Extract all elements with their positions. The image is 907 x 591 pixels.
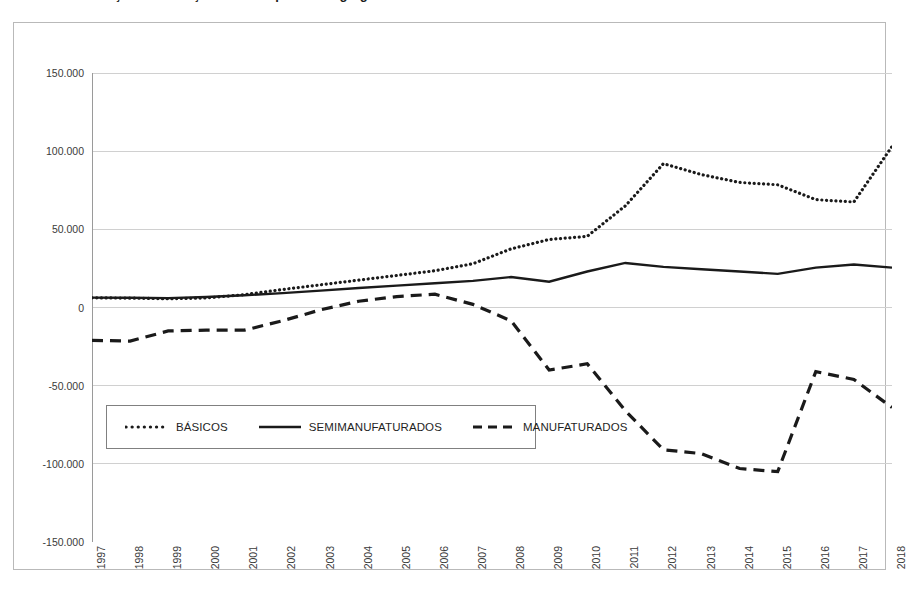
figure-title-strip: Gráfico 1 – Evolução da balança comercia… <box>0 0 900 12</box>
x-tick-label: 2008 <box>515 546 526 569</box>
plot-area <box>92 73 892 542</box>
x-tick-label: 2015 <box>782 546 793 569</box>
x-tick-label: 2009 <box>553 546 564 569</box>
x-tick-label: 2003 <box>325 546 336 569</box>
y-tick-label: 100.000 <box>22 146 84 157</box>
y-tick-label: -150.000 <box>22 537 84 548</box>
legend-label: MANUFATURADOS <box>523 421 628 433</box>
chart-canvas <box>92 73 892 542</box>
legend-item[interactable]: SEMIMANUFATURADOS <box>258 421 442 433</box>
legend-label: SEMIMANUFATURADOS <box>309 421 442 433</box>
legend-swatch-dashed <box>472 422 516 432</box>
x-tick-label: 1998 <box>134 546 145 569</box>
y-tick-label: 50.000 <box>22 224 84 235</box>
x-tick-label: 2018 <box>896 546 907 569</box>
y-tick-label: -50.000 <box>22 380 84 391</box>
legend-item[interactable]: BÁSICOS <box>125 421 228 433</box>
x-tick-label: 2005 <box>401 546 412 569</box>
chart-frame: 150.000100.00050.0000-50.000-100.000-150… <box>13 22 886 570</box>
y-tick-label: 150.000 <box>22 68 84 79</box>
y-tick-label: 0 <box>22 302 84 313</box>
figure-title: Gráfico 1 – Evolução da balança comercia… <box>8 0 391 2</box>
x-tick-label: 2002 <box>286 546 297 569</box>
x-tick-label: 2016 <box>820 546 831 569</box>
x-tick-label: 2014 <box>744 546 755 569</box>
legend-item[interactable]: MANUFATURADOS <box>472 421 628 433</box>
x-tick-label: 2012 <box>667 546 678 569</box>
y-axis-labels: 150.000100.00050.0000-50.000-100.000-150… <box>14 73 84 542</box>
x-tick-label: 2004 <box>363 546 374 569</box>
x-tick-label: 2007 <box>477 546 488 569</box>
chart-legend: BÁSICOSSEMIMANUFATURADOSMANUFATURADOS <box>106 405 536 449</box>
x-tick-label: 2017 <box>858 546 869 569</box>
x-tick-label: 2011 <box>629 546 640 569</box>
x-axis-labels: 1997199819992000200120022003200420052006… <box>92 546 892 591</box>
y-tick-label: -100.000 <box>22 459 84 470</box>
x-tick-label: 2001 <box>248 546 259 569</box>
x-tick-label: 2010 <box>591 546 602 569</box>
legend-swatch-dotted <box>125 422 169 432</box>
x-tick-label: 2013 <box>706 546 717 569</box>
x-tick-label: 1999 <box>172 546 183 569</box>
series-line-básicos <box>92 146 892 298</box>
legend-swatch-solid <box>258 422 302 432</box>
series-line-semimanufaturados <box>92 263 892 298</box>
legend-label: BÁSICOS <box>176 421 228 433</box>
x-tick-label: 1997 <box>96 546 107 569</box>
x-tick-label: 2000 <box>210 546 221 569</box>
x-tick-label: 2006 <box>439 546 450 569</box>
